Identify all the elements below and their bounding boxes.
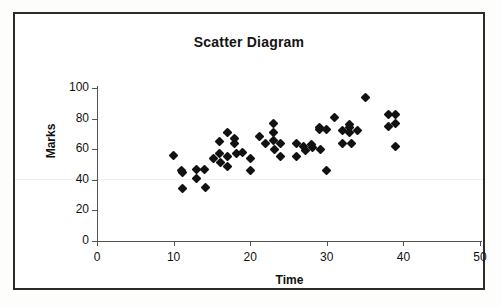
chart-title: Scatter Diagram <box>15 34 483 50</box>
y-tick-label-100: 100 <box>55 80 89 94</box>
scatter-chart-page: Scatter Diagram 020406080100 01020304050… <box>0 0 501 307</box>
y-tick-label-20: 20 <box>55 202 89 216</box>
x-tick-0 <box>97 241 98 246</box>
x-tick-label-10: 10 <box>154 250 194 264</box>
y-tick-label-0: 0 <box>55 233 89 247</box>
x-tick-label-20: 20 <box>230 250 270 264</box>
y-axis-title: Marks <box>44 101 58 181</box>
x-tick-30 <box>327 241 328 246</box>
chart-frame: Scatter Diagram 020406080100 01020304050… <box>13 12 485 290</box>
x-axis-line <box>97 241 482 242</box>
x-tick-40 <box>403 241 404 246</box>
x-tick-10 <box>174 241 175 246</box>
x-tick-20 <box>250 241 251 246</box>
y-tick-label-80: 80 <box>55 111 89 125</box>
x-tick-label-50: 50 <box>460 250 500 264</box>
x-tick-label-30: 30 <box>307 250 347 264</box>
x-tick-50 <box>480 241 481 246</box>
x-tick-label-40: 40 <box>383 250 423 264</box>
plot-area <box>97 88 480 241</box>
y-tick-label-40: 40 <box>55 172 89 186</box>
x-axis-title: Time <box>97 273 482 287</box>
y-tick-label-60: 60 <box>55 141 89 155</box>
x-tick-label-0: 0 <box>77 250 117 264</box>
